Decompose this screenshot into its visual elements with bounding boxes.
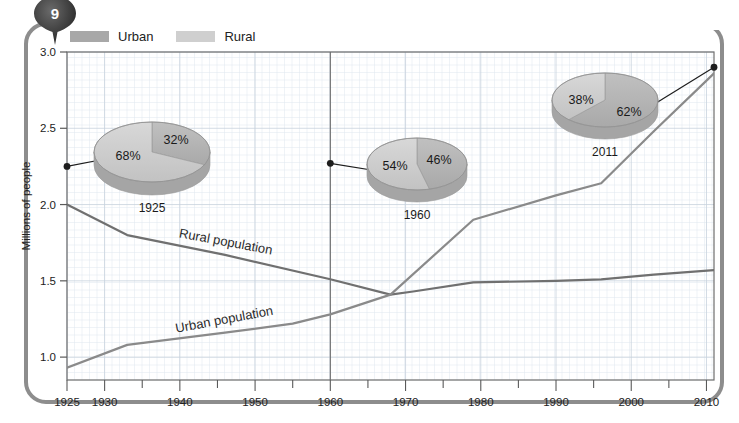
svg-text:2.5: 2.5 — [40, 122, 56, 134]
svg-text:1950: 1950 — [242, 396, 268, 408]
page-root: 9 Urban Rural Millions of people — [0, 0, 739, 423]
svg-text:2011: 2011 — [592, 145, 618, 159]
svg-text:2.0: 2.0 — [40, 199, 56, 211]
svg-text:1925: 1925 — [54, 396, 80, 408]
y-axis-ticks: 1.01.52.02.53.0 — [40, 46, 67, 363]
svg-text:1990: 1990 — [543, 396, 569, 408]
svg-text:1980: 1980 — [468, 396, 494, 408]
svg-text:1.5: 1.5 — [40, 275, 56, 287]
page-number-pin: 9 — [32, 0, 78, 46]
svg-text:54%: 54% — [382, 159, 407, 173]
svg-text:1960: 1960 — [318, 396, 344, 408]
svg-text:1970: 1970 — [393, 396, 419, 408]
legend-swatch-rural — [176, 31, 215, 42]
svg-text:1.0: 1.0 — [40, 351, 56, 363]
page-number-label: 9 — [32, 0, 78, 30]
legend-label-urban: Urban — [118, 29, 153, 44]
legend-label-rural: Rural — [224, 29, 255, 44]
svg-text:38%: 38% — [568, 93, 593, 107]
svg-text:68%: 68% — [115, 149, 140, 163]
svg-text:1930: 1930 — [92, 396, 118, 408]
svg-text:1960: 1960 — [404, 208, 431, 222]
svg-text:1940: 1940 — [167, 396, 193, 408]
svg-text:2010: 2010 — [694, 396, 720, 408]
svg-text:3.0: 3.0 — [40, 46, 56, 58]
y-axis-title: Millions of people — [20, 146, 32, 266]
chart-legend: Urban Rural — [70, 29, 270, 44]
svg-text:1925: 1925 — [139, 201, 166, 215]
x-axis-ticks: 1925193019401950196019701980199020002010 — [54, 380, 719, 408]
svg-text:46%: 46% — [426, 153, 451, 167]
svg-text:62%: 62% — [616, 105, 641, 119]
svg-text:32%: 32% — [163, 133, 188, 147]
svg-text:2000: 2000 — [618, 396, 644, 408]
chart-canvas: 1.01.52.02.53.0 192519301940195019601970… — [0, 0, 739, 423]
